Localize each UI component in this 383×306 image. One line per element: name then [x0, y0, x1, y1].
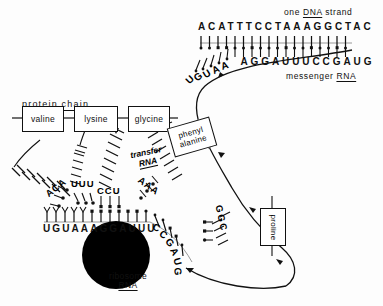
diagram-canvas: one DNA strand ACATTTCCTAAAGGCTAC AGGAUU…	[0, 0, 383, 306]
ribosome-mrna-paired-knobs	[90, 209, 147, 212]
dna-header-keyword: DNA	[303, 7, 322, 17]
amino-acid-box-valine[interactable]: valine	[22, 106, 64, 132]
amino-acid-box-proline[interactable]: proline	[260, 208, 286, 246]
trna-lysine-anticodon-knobs	[76, 201, 95, 205]
ribosome-label: ribosome RNA	[96, 272, 160, 290]
amino-acid-label-glycine: glycine	[135, 114, 164, 124]
mrna-entering-ribosome	[186, 268, 286, 288]
messenger-rna-sequence-text: AGGAUUUCCGAUG	[241, 56, 375, 67]
trna-glycine-ribbon	[99, 127, 124, 188]
trna-proline-anticodon-knobs	[203, 220, 206, 241]
dna-header-suffix: strand	[325, 7, 352, 17]
diagram-linework	[0, 0, 383, 306]
mrna-header-keyword: RNA	[336, 71, 356, 81]
ribosome-mrna-tail-ticks	[155, 216, 183, 256]
mrna-backbone-curve	[196, 50, 352, 286]
dna-base-ticks	[201, 36, 346, 48]
ribosome-mrna-base-tips	[44, 207, 86, 212]
ribosome-mrna-sequence-straight-text: UGUAAAGGAUUU	[43, 223, 157, 234]
dna-base-knobs	[200, 46, 348, 49]
messenger-rna-header: messenger RNA	[286, 72, 356, 81]
amino-acid-box-lysine[interactable]: lysine	[74, 106, 118, 132]
trna-lysine-anticodon-stems	[74, 193, 92, 201]
anticodon-ccu: CCU	[97, 185, 121, 196]
trna-glycine-anticodon-knobs	[99, 205, 120, 208]
mrna-header-prefix: messenger	[286, 71, 333, 81]
dna-header-prefix: one	[284, 7, 300, 17]
amino-acid-label-proline: proline	[269, 214, 278, 240]
dna-sequence: ACATTTCCTAAAGGCTAC	[198, 22, 374, 33]
dna-strand-header: one DNA strand	[284, 8, 352, 17]
amino-acid-box-glycine[interactable]: glycine	[128, 106, 170, 132]
ribosome-label-line2: RNA	[96, 281, 160, 290]
ribosome-mrna-sequence-straight: UGUAAAGGAUUU	[43, 224, 157, 235]
anticodon-uuu: UUU	[71, 178, 95, 189]
amino-acid-label-valine: valine	[31, 114, 55, 124]
messenger-rna-sequence: AGGAUUUCCGAUG	[241, 57, 375, 68]
trna-glycine-anticodon-stems	[101, 196, 119, 205]
ribosome-mrna-tail-knobs	[154, 214, 184, 247]
amino-acid-label-lysine: lysine	[84, 114, 108, 124]
ribosome-mrna-ticks	[47, 212, 146, 222]
trna-valine-link	[14, 140, 40, 167]
